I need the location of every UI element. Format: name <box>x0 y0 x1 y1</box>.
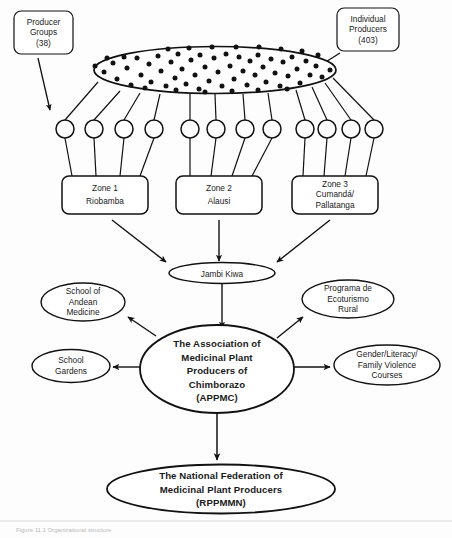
callout-producer-groups-line-2: Groups <box>30 27 57 37</box>
producer-group-circle <box>236 120 254 138</box>
producer-group-circles <box>56 120 383 138</box>
zone-box-zone-3: Zone 3 Cumandá/ Pallatanga <box>292 176 378 214</box>
school-gardens-line-1: School <box>58 355 84 365</box>
program-programa-ecoturismo-rural: Programa de Ecoturismo Rural <box>302 280 394 318</box>
school-andean-medicine-line-2: Andean <box>69 297 98 307</box>
bottom-line-3: (RPPMMN) <box>196 497 246 508</box>
school-andean-medicine-line-1: School of <box>66 286 101 296</box>
programa-ecoturismo-line-3: Rural <box>338 304 358 314</box>
school-gardens-line-2: Gardens <box>55 366 87 376</box>
organizational-diagram: Producer Groups (38) Individual Producer… <box>0 0 452 538</box>
zone-box-zone-1: Zone 1 Riobamba <box>62 176 148 214</box>
bottom-rppmmn: The National Federation of Medicinal Pla… <box>107 465 335 514</box>
zone-2-line-1: Zone 2 <box>206 183 232 193</box>
callout-individual-producers-line-1: Individual <box>350 14 385 24</box>
producer-group-circle <box>342 120 360 138</box>
diagram-canvas: Producer Groups (38) Individual Producer… <box>0 0 452 538</box>
center-line-3: Producers of <box>187 365 248 376</box>
zone-to-hub-arrows <box>112 220 330 262</box>
program-school-gardens: School Gardens <box>32 350 110 383</box>
callout-producer-groups: Producer Groups (38) <box>14 11 73 110</box>
gender-literacy-line-1: Gender/Literacy/ <box>356 349 418 359</box>
program-school-andean-medicine: School of Andean Medicine <box>41 283 125 321</box>
center-appmc: The Association of Medicinal Plant Produ… <box>140 325 294 413</box>
producer-group-circle <box>145 120 163 138</box>
figure-caption: Figure 11.1 Organizational structure <box>16 527 112 533</box>
zone-2-line-2: Alausi <box>208 196 231 206</box>
center-line-4: Chimborazo <box>189 379 245 390</box>
producer-group-circle <box>181 120 199 138</box>
programa-ecoturismo-line-1: Programa de <box>324 283 372 293</box>
producer-group-circle <box>56 120 74 138</box>
school-andean-medicine-line-3: Medicine <box>66 307 100 317</box>
programa-ecoturismo-line-2: Ecoturismo <box>327 294 369 304</box>
center-line-1: The Association of <box>173 338 261 349</box>
producer-group-circle <box>296 120 314 138</box>
zone-3-line-1: Zone 3 <box>322 179 348 189</box>
hub-jambi-kiwa: Jambi Kiwa <box>169 263 275 284</box>
callout-individual-producers-line-3: (403) <box>358 35 378 45</box>
callout-producer-groups-arrow <box>38 58 50 110</box>
gender-literacy-line-3: Courses <box>372 370 403 380</box>
producer-group-circle <box>318 120 336 138</box>
center-line-5: (APPMC) <box>196 392 238 403</box>
arrow-to-school-andean-medicine <box>128 317 156 336</box>
callout-individual-producers-line-2: Producers <box>349 24 387 34</box>
producer-group-circle <box>207 120 225 138</box>
zone-box-zone-2: Zone 2 Alausi <box>176 176 262 214</box>
individual-producers-pool <box>93 45 337 95</box>
producer-group-circle <box>365 120 383 138</box>
zone-3-to-hub-arrow <box>277 220 330 262</box>
zone-3-line-3: Pallatanga <box>315 200 355 210</box>
program-gender-literacy-courses: Gender/Literacy/ Family Violence Courses <box>334 345 440 385</box>
hub-label: Jambi Kiwa <box>201 269 244 279</box>
producer-group-circle <box>263 120 281 138</box>
bottom-line-2: Medicinal Plant Producers <box>160 484 282 495</box>
zone-1-to-hub-arrow <box>112 220 166 262</box>
producer-group-circle <box>85 120 103 138</box>
zone-1-line-2: Riobamba <box>86 196 124 206</box>
arrow-to-programa-ecoturismo-rural <box>277 317 303 338</box>
group-to-zone-connectors <box>65 138 374 176</box>
producer-group-circle <box>115 120 133 138</box>
zone-3-line-2: Cumandá/ <box>316 189 355 199</box>
callout-producer-groups-line-1: Producer <box>27 17 61 27</box>
bottom-line-1: The National Federation of <box>159 470 283 481</box>
center-line-2: Medicinal Plant <box>181 352 253 363</box>
zone-1-line-1: Zone 1 <box>92 183 118 193</box>
callout-producer-groups-line-3: (38) <box>36 38 51 48</box>
gender-literacy-line-2: Family Violence <box>358 360 417 370</box>
